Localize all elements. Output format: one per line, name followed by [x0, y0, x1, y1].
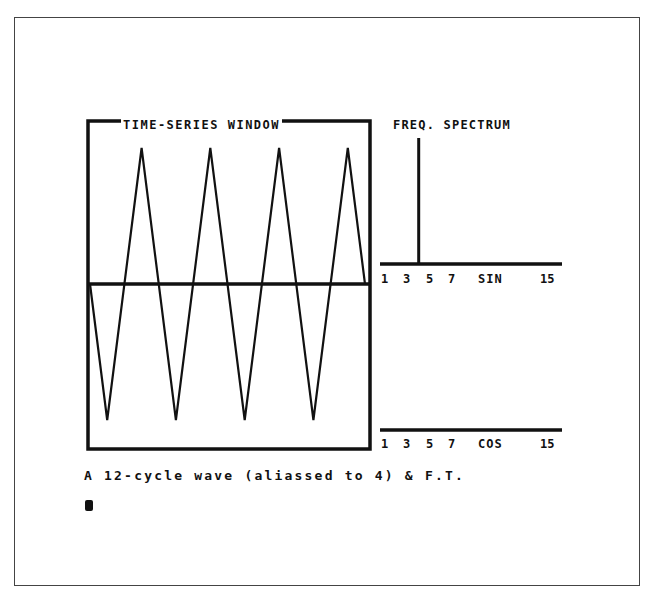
chart-canvas	[0, 0, 655, 599]
time-series-window	[88, 121, 370, 449]
sin-tick: 7	[448, 272, 455, 286]
block-cursor	[85, 500, 93, 511]
cos-tick: 5	[426, 437, 433, 451]
caption: A 12-cycle wave (aliassed to 4) & F.T.	[84, 468, 465, 483]
sin-tick: 15	[540, 272, 554, 286]
sin-tick: 3	[403, 272, 410, 286]
cos-tick: 7	[448, 437, 455, 451]
sin-tick: 1	[381, 272, 388, 286]
cos-tick: 1	[381, 437, 388, 451]
spectrum-title: FREQ. SPECTRUM	[393, 118, 511, 132]
time-series-title: TIME-SERIES WINDOW	[121, 118, 282, 132]
cos-tick: 15	[540, 437, 554, 451]
cos-tick: 3	[403, 437, 410, 451]
sin-label: SIN	[478, 272, 503, 286]
sin-tick: 5	[426, 272, 433, 286]
cos-label: COS	[478, 437, 503, 451]
